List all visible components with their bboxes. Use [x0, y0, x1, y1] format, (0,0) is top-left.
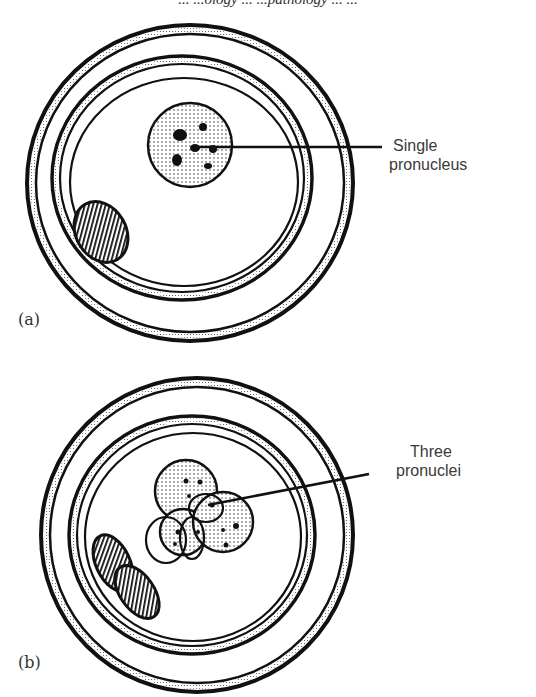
panel-label-b: (b) [18, 653, 41, 672]
zygote-b [41, 378, 369, 692]
pronuclei-b [146, 460, 253, 563]
annotation-a: Single pronucleus [393, 136, 467, 174]
annotation-b-line2: pronuclei [396, 461, 461, 480]
zygote-a [27, 25, 382, 341]
annotation-b: Three pronuclei [404, 442, 461, 480]
zygote-figure [0, 0, 536, 697]
polar-body-a [63, 192, 138, 272]
pronucleus-a [148, 103, 232, 187]
annotation-a-line1: Single [393, 136, 467, 155]
annotation-b-line1: Three [404, 442, 461, 461]
annotation-a-line2: pronucleus [389, 155, 467, 174]
panel-label-a: (a) [18, 310, 40, 329]
